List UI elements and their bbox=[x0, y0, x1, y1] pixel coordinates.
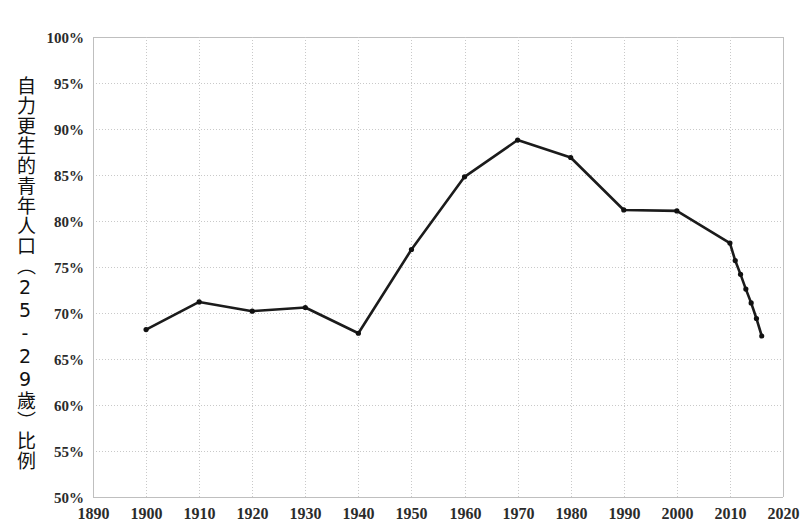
data-point-marker bbox=[743, 286, 748, 291]
data-point-marker bbox=[143, 327, 148, 332]
data-point-marker bbox=[674, 208, 679, 213]
x-axis-tick-label: 1930 bbox=[290, 505, 322, 522]
x-axis-tick-label: 2000 bbox=[662, 505, 694, 522]
line-chart-plot: 100%95%90%85%80%75%70%65%60%55%50% 18901… bbox=[0, 0, 812, 525]
x-axis-ticks: 1890190019101920193019401950196019701980… bbox=[78, 505, 800, 522]
y-axis-tick-label: 55% bbox=[54, 444, 84, 460]
x-axis-tick-label: 1950 bbox=[396, 505, 428, 522]
x-axis-tick-label: 1890 bbox=[78, 505, 110, 522]
data-point-marker bbox=[515, 137, 520, 142]
data-point-marker bbox=[303, 305, 308, 310]
data-point-marker bbox=[409, 247, 414, 252]
data-point-marker bbox=[759, 333, 764, 338]
y-axis-tick-label: 70% bbox=[54, 306, 84, 322]
y-axis-tick-label: 80% bbox=[54, 214, 84, 230]
data-point-marker bbox=[754, 316, 759, 321]
data-point-marker bbox=[733, 258, 738, 263]
x-axis-tick-label: 1940 bbox=[343, 505, 375, 522]
data-series-line bbox=[146, 140, 762, 336]
chart-container: 自力更生的青年人口（25-29歲）比例 100%95%90%85%80%75%7… bbox=[0, 0, 812, 525]
data-point-marker bbox=[727, 240, 732, 245]
y-axis-tick-label: 65% bbox=[54, 352, 84, 368]
y-axis-tick-label: 100% bbox=[47, 30, 85, 46]
x-axis-tick-label: 1920 bbox=[237, 505, 269, 522]
y-axis-tick-label: 90% bbox=[54, 122, 84, 138]
y-axis-tick-label: 60% bbox=[54, 398, 84, 414]
x-axis-tick-label: 1980 bbox=[556, 505, 588, 522]
data-point-marker bbox=[197, 299, 202, 304]
data-series-layer bbox=[143, 137, 764, 338]
gridlines bbox=[93, 37, 784, 498]
x-axis-tick-label: 2010 bbox=[715, 505, 747, 522]
data-point-marker bbox=[250, 309, 255, 314]
data-point-marker bbox=[749, 300, 754, 305]
y-axis-tick-label: 50% bbox=[54, 490, 84, 506]
y-axis-tick-label: 75% bbox=[54, 260, 84, 276]
x-axis-tick-label: 1960 bbox=[450, 505, 482, 522]
x-axis-tick-label: 2020 bbox=[768, 505, 800, 522]
x-axis-tick-label: 1990 bbox=[609, 505, 641, 522]
data-point-marker bbox=[621, 207, 626, 212]
y-axis-tick-label: 85% bbox=[54, 168, 84, 184]
data-point-marker bbox=[568, 155, 573, 160]
x-axis-tick-label: 1970 bbox=[503, 505, 535, 522]
x-axis-tick-label: 1910 bbox=[184, 505, 216, 522]
data-point-marker bbox=[462, 174, 467, 179]
data-point-marker bbox=[356, 331, 361, 336]
y-axis-tick-label: 95% bbox=[54, 76, 84, 92]
y-axis-ticks: 100%95%90%85%80%75%70%65%60%55%50% bbox=[47, 30, 85, 506]
data-point-marker bbox=[738, 272, 743, 277]
x-axis-tick-label: 1900 bbox=[131, 505, 163, 522]
